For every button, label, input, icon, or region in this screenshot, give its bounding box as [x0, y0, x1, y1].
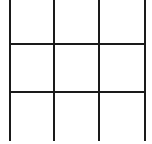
cell-r1-c0[interactable]: [11, 45, 55, 93]
cell-r2-c1[interactable]: [55, 93, 99, 141]
game-board: [9, 0, 146, 141]
cell-r1-c1[interactable]: [55, 45, 99, 93]
cell-r1-c2[interactable]: [100, 45, 144, 93]
cell-r2-c0[interactable]: [11, 93, 55, 141]
cell-r0-c0[interactable]: [11, 0, 55, 45]
cell-r0-c1[interactable]: [55, 0, 99, 45]
cell-r2-c2[interactable]: [100, 93, 144, 141]
cell-r0-c2[interactable]: [100, 0, 144, 45]
